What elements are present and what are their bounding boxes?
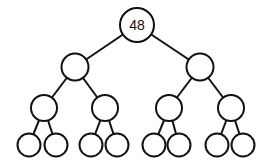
node-circle: [80, 134, 103, 157]
node-circle: [168, 134, 191, 157]
tree-node: [62, 54, 89, 81]
node-circle: [45, 134, 68, 157]
tree-node: [92, 95, 118, 121]
node-circle: [106, 134, 129, 157]
tree-node: [218, 95, 244, 121]
node-circle: [143, 134, 166, 157]
node-circle: [187, 54, 214, 81]
node-label: 48: [129, 17, 145, 33]
binary-tree-diagram: 48: [0, 0, 267, 167]
tree-root-node: 48: [120, 8, 154, 42]
tree-node: [80, 134, 103, 157]
tree-node: [156, 95, 182, 121]
tree-edges: [29, 25, 243, 145]
node-circle: [18, 134, 41, 157]
tree-node: [31, 95, 57, 121]
tree-nodes: 48: [18, 8, 255, 157]
tree-node: [106, 134, 129, 157]
tree-node: [232, 134, 255, 157]
tree-node: [143, 134, 166, 157]
node-circle: [232, 134, 255, 157]
node-circle: [31, 95, 57, 121]
tree-node: [187, 54, 214, 81]
node-circle: [62, 54, 89, 81]
tree-node: [18, 134, 41, 157]
node-circle: [218, 95, 244, 121]
tree-node: [45, 134, 68, 157]
node-circle: [92, 95, 118, 121]
tree-node: [206, 134, 229, 157]
node-circle: [156, 95, 182, 121]
tree-node: [168, 134, 191, 157]
node-circle: [206, 134, 229, 157]
